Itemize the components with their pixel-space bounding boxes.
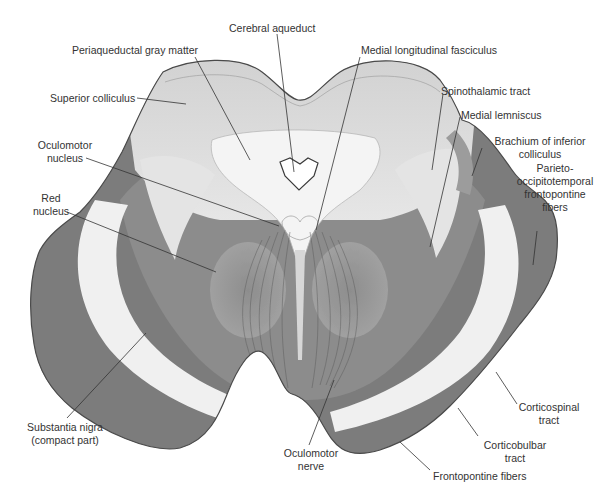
label-cerebral-aqueduct: Cerebral aqueduct [229, 22, 315, 35]
leader-corticobulbar [458, 408, 478, 436]
label-medial-longitudinal-fasciculus: Medial longitudinal fasciculus [361, 44, 497, 57]
label-substantia-nigra: Substantia nigra (compact part) [20, 421, 110, 447]
label-corticobulbar-tract: Corticobulbar tract [475, 439, 555, 465]
label-red-nucleus: Red nucleus [24, 192, 78, 218]
label-periaqueductal-gray-matter: Periaqueductal gray matter [72, 44, 198, 57]
label-superior-colliculus: Superior colliculus [50, 92, 135, 105]
label-oculomotor-nucleus: Oculomotor nucleus [30, 139, 100, 165]
label-frontopontine-fibers: Frontopontine fibers [433, 470, 526, 483]
label-spinothalamic-tract: Spinothalamic tract [441, 85, 530, 98]
label-brachium-of-inferior-colliculus: Brachium of inferior colliculus [480, 135, 600, 161]
label-parieto-occipitotemporal-frontopontine-fibers: Parieto- occipitotemporal frontopontine … [504, 162, 606, 214]
label-oculomotor-nerve: Oculomotor nerve [276, 447, 346, 473]
leader-frontopontine [400, 442, 430, 470]
label-medial-lemniscus: Medial lemniscus [461, 109, 542, 122]
leader-corticospinal [496, 372, 517, 404]
red-nucleus-left [210, 242, 286, 338]
red-nucleus-right [312, 242, 388, 338]
label-corticospinal-tract: Corticospinal tract [509, 401, 589, 427]
